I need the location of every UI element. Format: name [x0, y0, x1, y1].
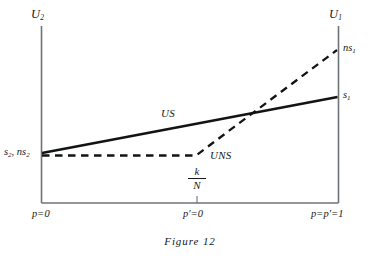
- s1-endpoint-label: s1: [343, 90, 351, 102]
- x-tick-label-left: p=0: [32, 209, 50, 220]
- us-solid-curve: [42, 97, 338, 153]
- ns1-endpoint-label: ns1: [343, 43, 356, 55]
- right-axis-label: U1: [329, 8, 342, 21]
- plot-area: [0, 0, 380, 259]
- uns-dashed-curve: [42, 50, 337, 156]
- fraction-denominator: N: [188, 180, 206, 192]
- us-curve-label: US: [161, 108, 175, 119]
- left-origin-label: s2, ns2: [4, 147, 30, 159]
- x-tick-label-right: p=p′=1: [311, 209, 344, 220]
- uns-curve-label: UNS: [210, 150, 231, 161]
- figure-caption: Figure 12: [0, 235, 380, 247]
- x-tick-label-middle: p′=0: [183, 209, 203, 220]
- figure-12-container: U2 U1 s2, ns2 ns1 s1 US UNS k N p=0 p′=0…: [0, 0, 380, 259]
- k-over-n-fraction: k N: [188, 166, 206, 191]
- left-axis-label: U2: [31, 8, 44, 21]
- fraction-numerator: k: [188, 166, 206, 178]
